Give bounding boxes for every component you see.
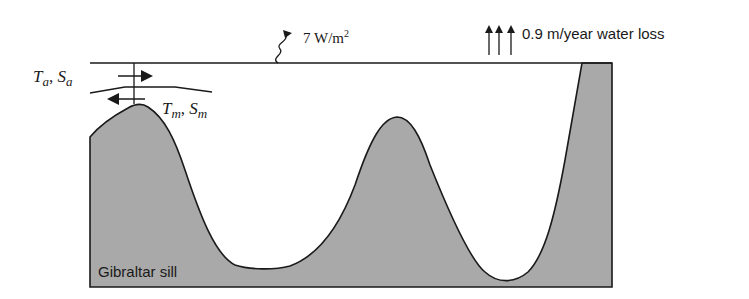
water-loss-label: 0.9 m/year water loss — [522, 25, 665, 42]
interface-line — [90, 87, 212, 93]
seabed-profile — [90, 63, 612, 287]
gibraltar-sill-label: Gibraltar sill — [98, 263, 177, 280]
evaporation-arrows-icon — [489, 31, 511, 55]
heat-flux-wavy-arrow — [276, 36, 287, 63]
mediterranean-cross-section-diagram: 7 W/m2 0.9 m/year water loss Ta, Sa Tm, … — [0, 0, 749, 299]
heat-flux-label: 7 W/m2 — [303, 28, 349, 46]
atlantic-properties-label: Ta, Sa — [33, 67, 73, 89]
mediterranean-properties-label: Tm, Sm — [162, 99, 207, 121]
heat-flux-arrowhead-icon — [283, 30, 292, 38]
